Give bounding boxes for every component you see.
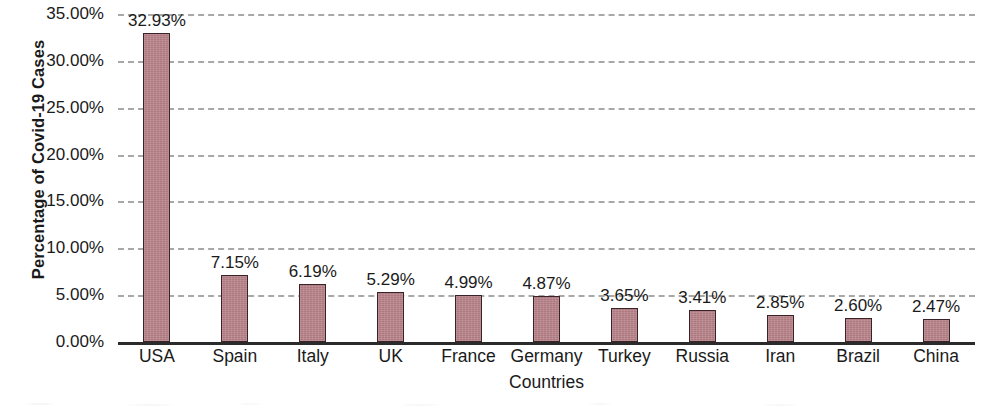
- y-axis-tick-label: 10.00%: [0, 238, 104, 258]
- y-axis-tick-label: 25.00%: [0, 98, 104, 118]
- bar-value-label: 2.47%: [871, 297, 983, 317]
- bar-group[interactable]: 6.19%: [274, 0, 352, 342]
- y-axis-tick-label: 0.00%: [0, 332, 104, 352]
- bars: 32.93%7.15%6.19%5.29%4.99%4.87%3.65%3.41…: [118, 0, 975, 343]
- bar[interactable]: [143, 33, 170, 342]
- y-axis-tick-labels: 0.00%5.00%10.00%15.00%20.00%25.00%30.00%…: [0, 0, 112, 409]
- bar[interactable]: [221, 275, 248, 342]
- x-axis-tick-labels: USASpainItalyUKFranceGermanyTurkeyRussia…: [118, 346, 975, 372]
- x-axis-title: Countries: [118, 372, 975, 393]
- plot-area: 32.93%7.15%6.19%5.29%4.99%4.87%3.65%3.41…: [118, 0, 975, 343]
- bar[interactable]: [767, 315, 794, 342]
- bar[interactable]: [533, 296, 560, 342]
- y-axis-tick-label: 35.00%: [0, 4, 104, 24]
- bar-group[interactable]: 32.93%: [118, 0, 196, 342]
- bar-group[interactable]: 2.60%: [819, 0, 897, 342]
- bar-group[interactable]: 2.47%: [897, 0, 975, 342]
- bar-chart: Percentage of Covid-19 Cases 0.00%5.00%1…: [0, 0, 983, 409]
- y-axis-tick-label: 5.00%: [0, 285, 104, 305]
- y-axis-tick-label: 15.00%: [0, 191, 104, 211]
- y-axis-tick-label: 30.00%: [0, 51, 104, 71]
- bar-group[interactable]: 7.15%: [196, 0, 274, 342]
- bar-group[interactable]: 2.85%: [741, 0, 819, 342]
- bar[interactable]: [611, 308, 638, 342]
- y-axis-tick-label: 20.00%: [0, 145, 104, 165]
- bar[interactable]: [377, 292, 404, 342]
- bar[interactable]: [689, 310, 716, 342]
- bar[interactable]: [923, 319, 950, 342]
- bar-group[interactable]: 3.41%: [663, 0, 741, 342]
- bar[interactable]: [845, 318, 872, 342]
- x-axis-tick-label: China: [888, 346, 983, 367]
- bar[interactable]: [299, 284, 326, 342]
- bar[interactable]: [455, 295, 482, 342]
- scan-artifact: [0, 400, 983, 409]
